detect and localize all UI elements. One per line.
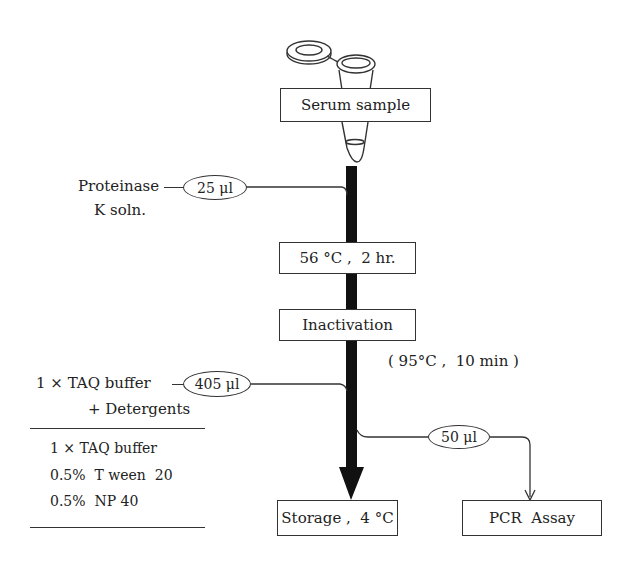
legend-top-rule	[30, 428, 205, 429]
main-arrow-head	[339, 467, 364, 500]
taq-volume-oval: 405 μl	[183, 371, 251, 397]
aliquot-volume-oval: 50 μl	[428, 425, 490, 449]
incubation-box: 56 °C , 2 hr.	[279, 242, 416, 274]
proteinase-label: Proteinase	[78, 177, 159, 195]
legend-item: 1 × TAQ buffer	[50, 440, 157, 456]
flow-lines	[0, 0, 629, 571]
detergents-label: + Detergents	[88, 400, 190, 418]
legend-item: 0.5% T ween 20	[50, 467, 173, 483]
storage-box: Storage , 4 °C	[277, 500, 398, 536]
legend-item: 0.5% NP 40	[50, 493, 138, 509]
legend-bottom-rule	[30, 527, 205, 528]
serum-sample-box: Serum sample	[280, 88, 431, 122]
inactivation-condition: ( 95°C , 10 min )	[388, 352, 519, 370]
inactivation-box: Inactivation	[279, 309, 416, 341]
proteinase-volume-oval: 25 μl	[183, 175, 247, 200]
pcr-assay-box: PCR Assay	[462, 500, 602, 536]
taq-buffer-label: 1 × TAQ buffer	[36, 374, 151, 392]
proteinase-label-line2: K soln.	[94, 201, 146, 219]
